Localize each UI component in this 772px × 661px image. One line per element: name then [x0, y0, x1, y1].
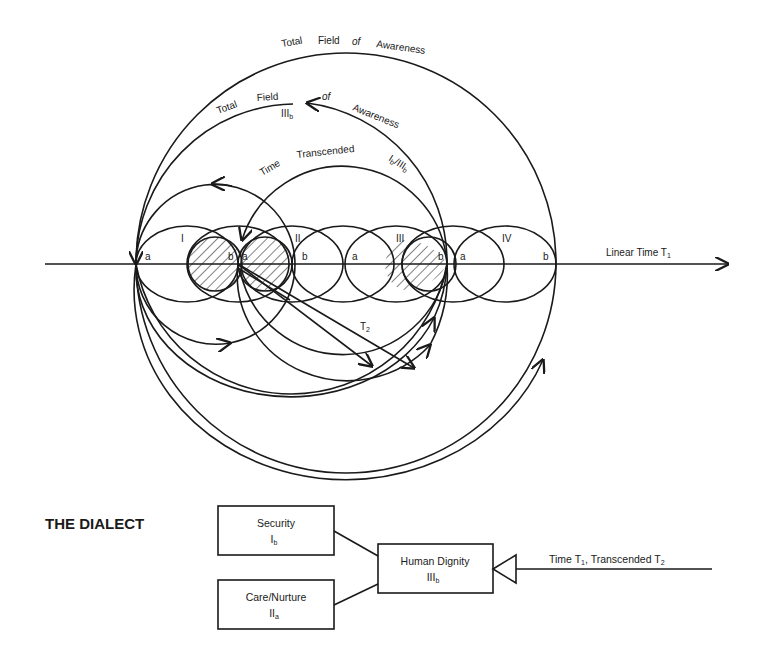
- svg-text:Field: Field: [318, 35, 340, 46]
- input-label: Time T1, Transcended T2: [549, 553, 665, 566]
- input-triangle: [493, 555, 516, 583]
- svg-text:II: II: [295, 233, 301, 244]
- svg-text:Total: Total: [215, 98, 239, 116]
- connector-security: [334, 531, 378, 556]
- svg-text:a: a: [460, 251, 466, 262]
- svg-text:b: b: [302, 251, 308, 262]
- linear-time-label: Linear Time T1: [606, 247, 671, 259]
- human-dignity-box: Human Dignity IIIb: [378, 544, 493, 593]
- svg-text:of: of: [322, 91, 332, 102]
- t2-label: T2: [360, 321, 370, 333]
- svg-text:Total: Total: [280, 34, 303, 49]
- svg-text:b: b: [438, 251, 444, 262]
- time-transcended-label: Time Transcended Ib/IIIb: [258, 143, 412, 178]
- svg-text:Time T1, Transcended T2: Time T1, Transcended T2: [549, 553, 665, 566]
- svg-text:IIIb: IIIb: [281, 108, 293, 120]
- dialect-diagram: Total Field of Awareness Total Field of …: [0, 0, 772, 661]
- svg-text:T2: T2: [360, 321, 370, 333]
- svg-text:IV: IV: [502, 233, 512, 244]
- dialect-title: THE DIALECT: [45, 515, 144, 532]
- lower-mid-arc-1: [136, 264, 434, 397]
- svg-text:Linear Time T1: Linear Time T1: [606, 247, 671, 259]
- svg-text:I: I: [181, 233, 184, 244]
- svg-text:Security: Security: [257, 517, 296, 529]
- t2-arrow-1: [238, 264, 372, 366]
- security-box: Security Ib: [218, 506, 334, 555]
- total-field-middle-arc-right: [307, 103, 447, 264]
- svg-text:b: b: [228, 251, 234, 262]
- svg-text:of: of: [352, 36, 362, 47]
- svg-text:a: a: [242, 251, 248, 262]
- svg-text:Awareness: Awareness: [376, 38, 426, 56]
- t2-arrow-2: [238, 264, 414, 368]
- middle-arc-label: Total Field of Awareness IIIb: [215, 91, 401, 131]
- connector-care: [334, 584, 378, 605]
- svg-text:a: a: [145, 251, 151, 262]
- svg-text:b: b: [543, 251, 549, 262]
- svg-text:a: a: [352, 251, 358, 262]
- svg-text:Field: Field: [256, 91, 278, 103]
- svg-text:Time: Time: [258, 157, 283, 178]
- svg-text:Human Dignity: Human Dignity: [401, 555, 471, 567]
- svg-text:Awareness: Awareness: [351, 102, 401, 131]
- svg-text:Transcended: Transcended: [296, 143, 355, 160]
- care-nurture-box: Care/Nurture IIa: [218, 580, 334, 629]
- svg-text:III: III: [396, 233, 404, 244]
- svg-text:Care/Nurture: Care/Nurture: [246, 591, 307, 603]
